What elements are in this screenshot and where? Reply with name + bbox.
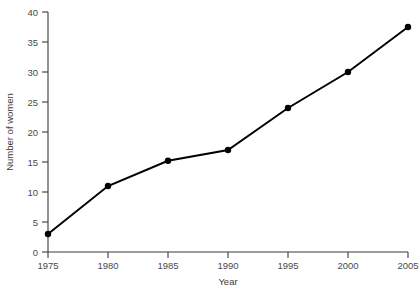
x-axis-ticks	[48, 252, 408, 258]
x-tick-label-1990: 1990	[217, 260, 238, 271]
x-tick-label-1995: 1995	[277, 260, 298, 271]
data-point-1995	[285, 105, 291, 111]
y-axis-title: Number of women	[4, 93, 15, 171]
y-tick-label-35: 35	[27, 37, 38, 48]
x-tick-label-1985: 1985	[157, 260, 178, 271]
data-point-2000	[345, 69, 351, 75]
series-markers	[45, 24, 411, 237]
x-tick-label-2000: 2000	[337, 260, 358, 271]
x-axis-title: Year	[218, 276, 237, 287]
y-tick-label-15: 15	[27, 157, 38, 168]
y-tick-label-20: 20	[27, 127, 38, 138]
chart-page: 0 5 10 15 20 25 30 35 40 1975 1980 1985 …	[0, 0, 420, 291]
y-axis-ticks	[42, 12, 48, 252]
x-tick-label-1975: 1975	[37, 260, 58, 271]
data-point-1990	[225, 147, 231, 153]
line-chart: 0 5 10 15 20 25 30 35 40 1975 1980 1985 …	[0, 0, 420, 291]
x-tick-label-1980: 1980	[97, 260, 118, 271]
series-line	[48, 27, 408, 234]
y-tick-label-10: 10	[27, 187, 38, 198]
data-point-1980	[105, 183, 111, 189]
y-tick-label-0: 0	[33, 247, 38, 258]
y-tick-label-25: 25	[27, 97, 38, 108]
y-tick-label-5: 5	[33, 217, 38, 228]
data-point-2005	[405, 24, 411, 30]
data-point-1985	[165, 158, 171, 164]
y-tick-label-40: 40	[27, 7, 38, 18]
data-point-1975	[45, 231, 51, 237]
y-tick-label-30: 30	[27, 67, 38, 78]
y-axis-tick-labels: 0 5 10 15 20 25 30 35 40	[27, 7, 38, 258]
x-axis-tick-labels: 1975 1980 1985 1990 1995 2000 2005	[37, 260, 418, 271]
x-tick-label-2005: 2005	[397, 260, 418, 271]
